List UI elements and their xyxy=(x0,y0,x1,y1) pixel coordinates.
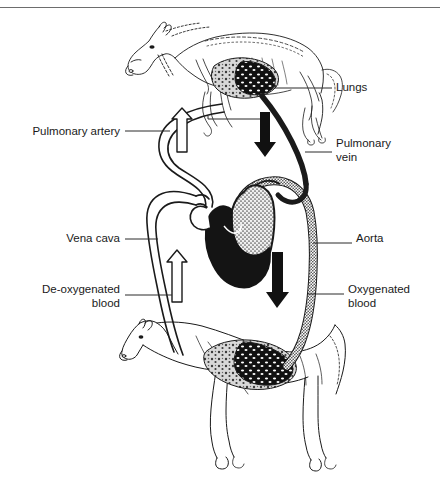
body-tissues xyxy=(204,340,297,390)
label-oxygenated-blood: Oxygenated blood xyxy=(348,282,410,310)
arrow-pulmonary-artery-up xyxy=(172,108,192,152)
label-lungs: Lungs xyxy=(336,80,367,94)
circulation-figure xyxy=(0,0,440,496)
diagram-page: Lungs Pulmonary vein Aorta Oxygenated bl… xyxy=(0,0,440,496)
label-pulmonary-vein: Pulmonary vein xyxy=(336,136,391,164)
label-deoxygenated-blood: De-oxygenated blood xyxy=(4,282,120,310)
label-aorta: Aorta xyxy=(356,231,384,245)
label-vena-cava: Vena cava xyxy=(8,231,120,245)
pulmonary-artery-vessel xyxy=(159,104,224,209)
label-pulmonary-artery: Pulmonary artery xyxy=(8,124,120,138)
arrow-vena-cava-up xyxy=(167,250,187,302)
